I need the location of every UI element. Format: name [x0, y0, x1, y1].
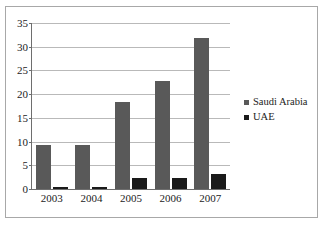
- bar-saudi-arabia-2005: [115, 102, 130, 189]
- x-axis-tick-label: 2005: [111, 193, 151, 204]
- bar-group: 2004: [72, 23, 112, 189]
- bar-uae-2005: [132, 178, 147, 189]
- bar-uae-2006: [172, 178, 187, 189]
- plot-area: 0510152025303520032004200520062007: [31, 23, 230, 190]
- bar-group: 2006: [151, 23, 191, 189]
- legend-label-uae: UAE: [253, 112, 275, 123]
- bar-saudi-arabia-2004: [75, 145, 90, 189]
- x-axis-tick-label: 2003: [32, 193, 72, 204]
- y-axis-tick-label: 15: [17, 112, 28, 123]
- bar-uae-2004: [92, 187, 107, 189]
- legend-swatch-saudi-arabia: [244, 100, 249, 105]
- bar-group: 2003: [32, 23, 72, 189]
- bar-group: 2007: [190, 23, 230, 189]
- x-axis-tick-label: 2007: [190, 193, 230, 204]
- x-axis-tick-label: 2004: [72, 193, 112, 204]
- legend-item-saudi-arabia: Saudi Arabia: [244, 95, 316, 110]
- y-axis-tick-label: 20: [17, 89, 28, 100]
- y-axis-tick-label: 30: [17, 41, 28, 52]
- y-axis-tick-label: 25: [17, 65, 28, 76]
- bar-uae-2003: [53, 187, 68, 189]
- bar-uae-2007: [211, 174, 226, 189]
- bar-saudi-arabia-2003: [36, 145, 51, 189]
- bar-group: 2005: [111, 23, 151, 189]
- y-axis-tick-label: 5: [23, 160, 29, 171]
- y-axis-tick-label: 0: [23, 184, 29, 195]
- chart-figure: 0510152025303520032004200520062007 Saudi…: [5, 6, 318, 218]
- legend-label-saudi-arabia: Saudi Arabia: [253, 97, 308, 108]
- legend-item-uae: UAE: [244, 110, 316, 125]
- bar-saudi-arabia-2006: [155, 81, 170, 189]
- legend-swatch-uae: [244, 115, 249, 120]
- y-axis-tick-label: 10: [17, 136, 28, 147]
- y-axis-tick-label: 35: [17, 18, 28, 29]
- bar-saudi-arabia-2007: [194, 38, 209, 189]
- y-axis-tick-mark: [29, 189, 32, 190]
- chart-legend: Saudi Arabia UAE: [244, 95, 316, 125]
- x-axis-tick-label: 2006: [151, 193, 191, 204]
